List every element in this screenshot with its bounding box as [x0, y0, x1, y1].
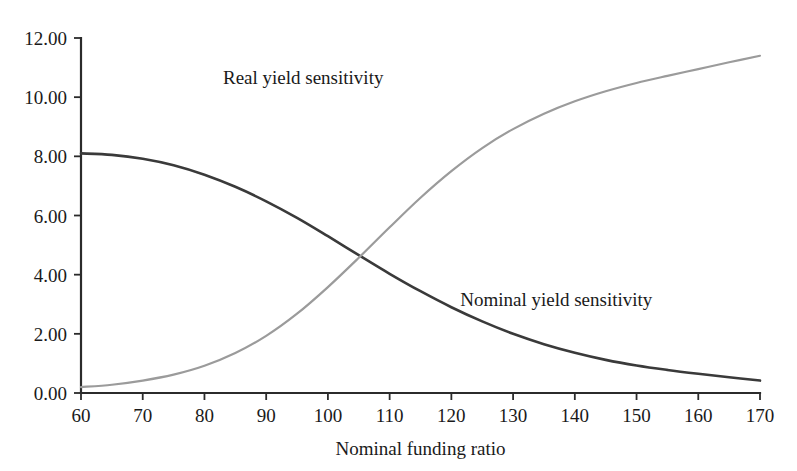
x-axis-title: Nominal funding ratio	[336, 438, 506, 459]
x-tick-label: 130	[499, 405, 528, 426]
series-label-real-yield-sensitivity: Real yield sensitivity	[223, 67, 384, 88]
y-tick-label: 12.00	[24, 28, 67, 49]
series-line-real-yield-sensitivity	[81, 56, 760, 387]
x-tick-label: 170	[746, 405, 775, 426]
chart-figure: 0.002.004.006.008.0010.0012.00 607080901…	[0, 0, 797, 471]
y-tick-label: 10.00	[24, 87, 67, 108]
x-tick-label: 60	[72, 405, 91, 426]
x-tick-label: 160	[684, 405, 713, 426]
y-tick-label: 0.00	[34, 383, 67, 404]
series-line-nominal-yield-sensitivity	[81, 153, 760, 380]
series-lines	[81, 56, 760, 387]
x-tick-label: 150	[622, 405, 651, 426]
x-tick-label: 110	[376, 405, 404, 426]
series-annotations: Nominal yield sensitivityReal yield sens…	[223, 67, 653, 310]
series-label-nominal-yield-sensitivity: Nominal yield sensitivity	[460, 289, 653, 310]
x-tick-label: 100	[314, 405, 343, 426]
axis-tick-marks	[74, 38, 760, 400]
x-tick-label: 120	[437, 405, 466, 426]
y-tick-label: 4.00	[34, 265, 67, 286]
y-axis-tick-labels: 0.002.004.006.008.0010.0012.00	[24, 28, 67, 404]
y-tick-label: 8.00	[34, 146, 67, 167]
x-axis-tick-labels: 60708090100110120130140150160170	[72, 405, 775, 426]
chart-canvas: 0.002.004.006.008.0010.0012.00 607080901…	[0, 0, 797, 471]
y-tick-label: 6.00	[34, 206, 67, 227]
x-tick-label: 90	[257, 405, 276, 426]
x-tick-label: 140	[561, 405, 590, 426]
x-tick-label: 70	[133, 405, 152, 426]
axis-lines	[81, 38, 760, 393]
y-tick-label: 2.00	[34, 324, 67, 345]
x-tick-label: 80	[195, 405, 214, 426]
